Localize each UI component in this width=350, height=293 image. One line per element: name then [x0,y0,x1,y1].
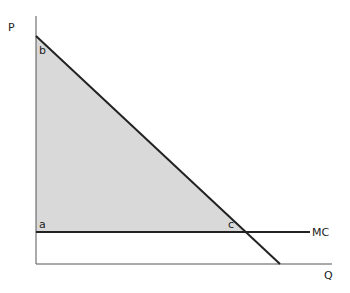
x-axis-label: Q [324,270,333,281]
point-a-label: a [39,219,46,230]
y-axis-label: P [8,22,15,33]
point-c-label: c [228,219,234,230]
mc-label: MC [312,227,329,238]
point-b-label: b [39,45,46,56]
diagram-canvas [0,0,350,293]
